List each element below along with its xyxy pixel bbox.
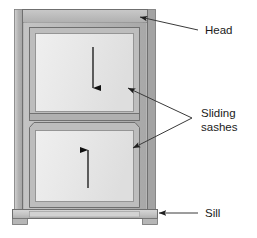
sill-inner-band (30, 212, 140, 218)
label-sliding-sashes-line2: sashes (201, 121, 238, 133)
label-sill: Sill (205, 207, 220, 219)
label-sliding-sashes-line1: Sliding (201, 107, 236, 119)
sill-left-horn (13, 219, 28, 225)
window-head (23, 10, 148, 23)
sash-window-diagram: Head Sliding sashes Sill (0, 0, 257, 238)
label-head: Head (205, 24, 233, 36)
meeting-rail (30, 114, 140, 121)
diagram-canvas: Head Sliding sashes Sill (0, 0, 257, 238)
upper-sash-glass (36, 34, 134, 112)
sill-right-horn (143, 219, 158, 225)
lower-sash-glass (36, 131, 134, 202)
